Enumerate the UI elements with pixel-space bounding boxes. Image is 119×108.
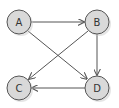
node-label: C (16, 83, 23, 94)
node-label: B (94, 17, 101, 28)
node-d: D (85, 76, 111, 102)
graph-diagram: A B C D (0, 0, 119, 108)
node-label: A (16, 17, 23, 28)
node-a: A (7, 10, 33, 36)
node-label: D (93, 83, 101, 94)
edge-a-d (28, 31, 87, 79)
node-b: B (85, 10, 111, 36)
node-c: C (7, 76, 33, 102)
edge-b-c (29, 31, 88, 79)
